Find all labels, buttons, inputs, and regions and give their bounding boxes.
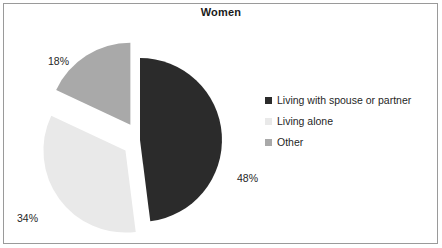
pie-value-label-living-alone: 34% [17, 212, 38, 224]
pie-plot-area: 18% 34% 48% [10, 22, 260, 242]
pie-value-label-living-with-spouse: 48% [237, 172, 258, 184]
legend-item-living-alone[interactable]: Living alone [265, 111, 437, 132]
legend-swatch-alone-icon [265, 118, 272, 125]
pie-value-label-other: 18% [48, 55, 69, 67]
pie-slice-living-alone[interactable] [43, 116, 135, 233]
legend-item-other[interactable]: Other [265, 132, 437, 153]
pie-chart-figure: Women 18% 34% 48% Living with spouse or … [0, 0, 442, 248]
legend-item-living-with-spouse-or-partner[interactable]: Living with spouse or partner [265, 90, 437, 111]
legend-swatch-spouse-icon [265, 97, 272, 104]
pie-slice-living-with-spouse-or-partner[interactable] [140, 58, 222, 221]
legend-label-other: Other [277, 137, 303, 148]
chart-legend: Living with spouse or partner Living alo… [265, 90, 437, 153]
legend-label-living-alone: Living alone [277, 116, 333, 127]
chart-title: Women [0, 6, 442, 18]
legend-swatch-other-icon [265, 139, 272, 146]
legend-label-living-with-spouse-or-partner: Living with spouse or partner [277, 95, 411, 106]
